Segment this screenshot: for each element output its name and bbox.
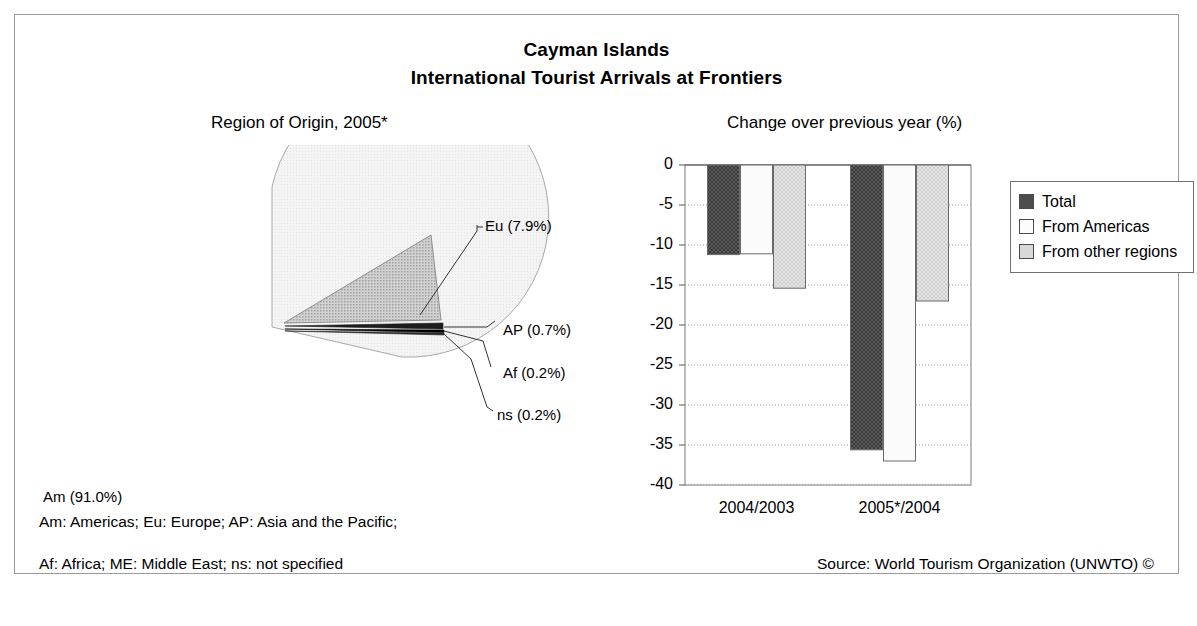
pie-label-af: Af (0.2%) <box>503 364 566 381</box>
bar-total-2004-2003 <box>708 165 740 255</box>
y-axis-tick-label: -25 <box>619 355 673 373</box>
y-axis-tick-label: 0 <box>619 155 673 173</box>
legend-label-total: Total <box>1042 193 1076 211</box>
pie-chart-svg <box>35 145 635 485</box>
x-axis-tick-label: 2005*/2004 <box>828 499 971 517</box>
pie-label-eu: Eu (7.9%) <box>485 217 552 234</box>
bar-total-2005-2004 <box>851 165 883 450</box>
x-axis-tick-label: 2004/2003 <box>685 499 828 517</box>
y-axis-tick-label: -5 <box>619 195 673 213</box>
pie-chart: Am (91.0%) Eu (7.9%) AP (0.7%) Af (0.2%)… <box>35 145 635 485</box>
y-axis-tick-label: -15 <box>619 275 673 293</box>
legend-swatch-from-americas <box>1019 219 1034 234</box>
page-title: Cayman Islands <box>15 39 1178 61</box>
legend-item-from-americas: From Americas <box>1019 214 1185 239</box>
footnote-line-2: Af: Africa; ME: Middle East; ns: not spe… <box>39 555 343 573</box>
pie-label-ns: ns (0.2%) <box>497 406 561 423</box>
pie-label-am: Am (91.0%) <box>43 488 122 505</box>
chart-page: Cayman Islands International Tourist Arr… <box>0 0 1197 626</box>
legend-item-from-other-regions: From other regions <box>1019 239 1185 264</box>
y-axis-tick-label: -35 <box>619 435 673 453</box>
legend-label-from-other-regions: From other regions <box>1042 243 1177 261</box>
footnote-line-1: Am: Americas; Eu: Europe; AP: Asia and t… <box>39 513 397 531</box>
legend-item-total: Total <box>1019 189 1185 214</box>
legend-swatch-total <box>1019 194 1034 209</box>
bar-plot-area <box>679 165 971 485</box>
y-axis-tick-label: -40 <box>619 475 673 493</box>
bar-from-americas-2005-2004 <box>884 165 916 461</box>
pie-label-ap: AP (0.7%) <box>503 321 571 338</box>
legend-label-from-americas: From Americas <box>1042 218 1150 236</box>
y-axis-tick-label: -20 <box>619 315 673 333</box>
chart-frame: Cayman Islands International Tourist Arr… <box>14 14 1179 574</box>
bar-chart-heading: Change over previous year (%) <box>727 113 962 133</box>
y-axis-tick-label: -10 <box>619 235 673 253</box>
bar-from-other-regions-2005-2004 <box>917 165 949 301</box>
legend-swatch-from-other-regions <box>1019 244 1034 259</box>
source-note: Source: World Tourism Organization (UNWT… <box>817 555 1154 573</box>
y-axis-tick-label: -30 <box>619 395 673 413</box>
pie-chart-heading: Region of Origin, 2005* <box>211 113 388 133</box>
bar-from-other-regions-2004-2003 <box>774 165 806 288</box>
page-subtitle: International Tourist Arrivals at Fronti… <box>15 67 1178 89</box>
bar-from-americas-2004-2003 <box>741 165 773 254</box>
chart-legend: Total From Americas From other regions <box>1010 181 1194 273</box>
